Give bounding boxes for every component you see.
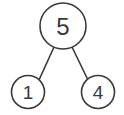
root-node-label: 5	[56, 13, 69, 40]
edge-root-to-left-child	[39, 47, 54, 80]
tree-node-left-child[interactable]: 1	[12, 76, 45, 109]
tree-node-root[interactable]: 5	[40, 3, 86, 49]
tree-diagram-canvas: 5 1 4	[0, 0, 124, 115]
tree-diagram: 5 1 4	[0, 0, 124, 115]
left-child-node-label: 1	[23, 82, 34, 103]
tree-node-right-child[interactable]: 4	[82, 76, 115, 109]
right-child-node-label: 4	[93, 82, 104, 103]
edge-root-to-right-child	[72, 47, 88, 80]
